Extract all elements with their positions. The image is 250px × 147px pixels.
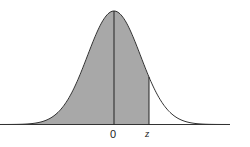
mean-label: 0 xyxy=(110,129,116,140)
normal-curve-figure xyxy=(0,0,250,147)
shaded-area xyxy=(0,11,149,125)
z-label: z xyxy=(145,128,149,139)
